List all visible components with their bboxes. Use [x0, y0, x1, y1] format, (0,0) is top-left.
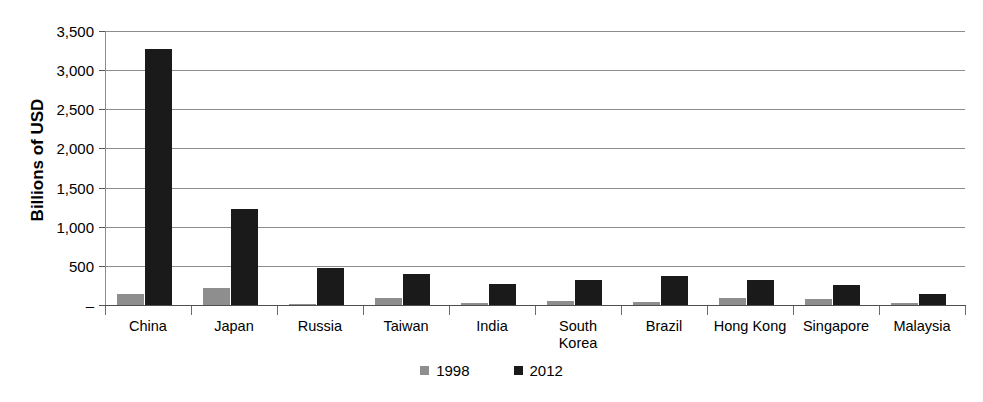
bar-2012-japan — [231, 209, 258, 305]
x-axis-tick — [191, 306, 192, 315]
x-axis-label-singapore: Singapore — [793, 318, 879, 335]
bar-chart: Billions of USD –5001,0001,5002,0002,500… — [0, 0, 983, 402]
y-axis-tick-label: 3,500 — [0, 31, 94, 32]
y-axis-tick-label-text: 2,000 — [56, 140, 94, 157]
bar-1998-china — [117, 294, 144, 305]
x-axis-tick — [793, 306, 794, 315]
y-axis-tick-label: 1,500 — [0, 188, 94, 189]
x-axis-label-japan: Japan — [191, 318, 277, 335]
gridline — [105, 70, 965, 71]
y-axis-tick-label-text: 2,500 — [56, 101, 94, 118]
y-axis-tick-label-text: 1,000 — [56, 219, 94, 236]
bar-2012-brazil — [661, 276, 688, 305]
bar-2012-india — [489, 284, 516, 305]
x-axis-label-malaysia: Malaysia — [879, 318, 965, 335]
x-axis-label-hong-kong: Hong Kong — [707, 318, 793, 335]
plot-area — [105, 31, 965, 305]
y-axis-tick-label-text: 1,500 — [56, 180, 94, 197]
gridline — [105, 109, 965, 110]
x-axis-tick — [363, 306, 364, 315]
gridline — [105, 148, 965, 149]
legend-swatch-2012 — [514, 366, 523, 375]
bar-2012-malaysia — [919, 294, 946, 305]
x-axis-tick — [621, 306, 622, 315]
legend-item-2012[interactable]: 2012 — [514, 362, 563, 379]
x-axis-tick — [277, 306, 278, 315]
legend-label-2012: 2012 — [530, 362, 563, 379]
gridline — [105, 188, 965, 189]
legend-swatch-1998 — [420, 366, 429, 375]
bar-2012-hong-kong — [747, 280, 774, 305]
x-axis-label-south-korea: South Korea — [535, 318, 621, 352]
gridline — [105, 31, 965, 32]
y-axis-tick-label-text: 500 — [69, 258, 94, 275]
x-axis-label-india: India — [449, 318, 535, 335]
y-axis-title: Billions of USD — [28, 40, 48, 280]
bar-2012-taiwan — [403, 274, 430, 305]
x-axis-tick — [707, 306, 708, 315]
chart-legend: 19982012 — [0, 362, 983, 379]
x-axis-tick — [879, 306, 880, 315]
y-axis-tick-label: 500 — [0, 266, 94, 267]
y-axis-line — [105, 31, 106, 305]
legend-item-1998[interactable]: 1998 — [420, 362, 469, 379]
x-axis-label-china: China — [105, 318, 191, 335]
y-axis-tick-label: 2,500 — [0, 109, 94, 110]
y-axis-tick-label: 1,000 — [0, 227, 94, 228]
x-axis-label-russia: Russia — [277, 318, 363, 335]
bar-2012-china — [145, 49, 172, 305]
bar-1998-japan — [203, 288, 230, 305]
x-axis-tick — [449, 306, 450, 315]
y-axis-tick-label: 3,000 — [0, 70, 94, 71]
y-axis-tick-label-text: 3,000 — [56, 62, 94, 79]
y-axis-tick-label: – — [0, 305, 94, 306]
bar-1998-hong-kong — [719, 298, 746, 305]
bar-1998-taiwan — [375, 298, 402, 305]
y-axis-tick-label-text: – — [86, 297, 94, 314]
bar-2012-singapore — [833, 285, 860, 305]
x-axis-label-taiwan: Taiwan — [363, 318, 449, 335]
x-axis-tick — [535, 306, 536, 315]
x-axis-tick — [105, 306, 106, 315]
bar-2012-south-korea — [575, 280, 602, 305]
bar-2012-russia — [317, 268, 344, 305]
x-axis-label-brazil: Brazil — [621, 318, 707, 335]
legend-label-1998: 1998 — [436, 362, 469, 379]
y-axis-tick-label: 2,000 — [0, 148, 94, 149]
x-axis-tick — [965, 306, 966, 315]
y-axis-tick-label-text: 3,500 — [56, 23, 94, 40]
